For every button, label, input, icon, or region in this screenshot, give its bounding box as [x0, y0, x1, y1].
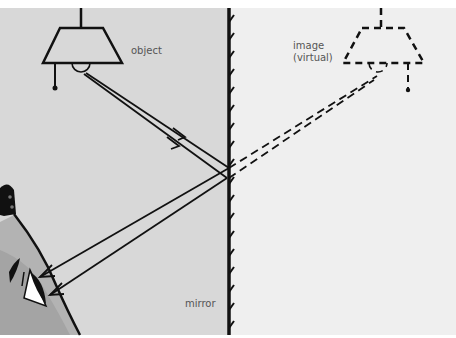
diagram-canvas	[0, 0, 456, 338]
mirror-label: mirror	[185, 298, 216, 310]
mirror-reflection-diagram: object image (virtual) mirror	[0, 0, 456, 338]
image-label: image (virtual)	[293, 40, 333, 64]
image-label-line1: image	[293, 40, 333, 52]
image-label-line2: (virtual)	[293, 52, 333, 64]
object-label: object	[131, 45, 162, 57]
